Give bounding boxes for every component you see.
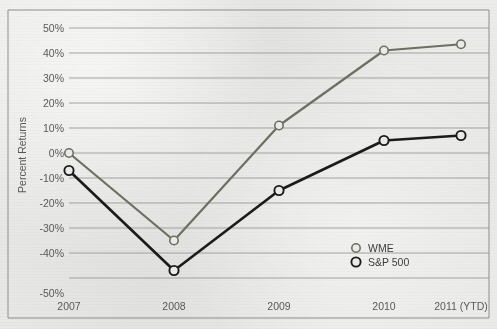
y-tick-label: 50%	[43, 22, 64, 34]
chart-page: Percent Returns 50% 40% 30% 20% 10% 0% -…	[0, 0, 497, 329]
data-point-marker	[169, 266, 178, 275]
y-tick-label: 20%	[43, 97, 64, 109]
legend-marker-icon	[351, 257, 360, 266]
x-tick-label: 2010	[372, 300, 396, 312]
gridlines	[69, 28, 489, 278]
y-tick-label: 0%	[49, 147, 64, 159]
y-tick-label: -40%	[39, 247, 64, 259]
data-point-marker	[379, 136, 388, 145]
data-point-marker	[64, 166, 73, 175]
legend-marker-icon	[352, 244, 360, 252]
y-axis-tick-labels: 50% 40% 30% 20% 10% 0% -10% -20% -30% -4…	[39, 22, 64, 299]
data-point-marker	[170, 236, 178, 244]
y-tick-label: 30%	[43, 72, 64, 84]
y-tick-label: 40%	[43, 47, 64, 59]
y-tick-label: 10%	[43, 122, 64, 134]
data-point-marker	[274, 186, 283, 195]
x-tick-label: 2011 (YTD)	[434, 300, 488, 312]
data-point-marker	[275, 121, 283, 129]
y-tick-label: -50%	[39, 287, 64, 299]
returns-line-chart: Percent Returns 50% 40% 30% 20% 10% 0% -…	[0, 0, 497, 329]
x-axis-tick-labels: 2007 2008 2009 2010 2011 (YTD)	[57, 300, 487, 312]
y-tick-label: -20%	[39, 197, 64, 209]
y-tick-label: -10%	[39, 172, 64, 184]
x-tick-label: 2009	[267, 300, 291, 312]
data-point-marker	[65, 149, 73, 157]
plot-frame	[8, 10, 489, 318]
series-line-wme	[69, 44, 461, 240]
data-point-marker	[457, 40, 465, 48]
y-tick-label: -30%	[39, 222, 64, 234]
legend-label-sp500: S&P 500	[368, 256, 409, 268]
data-point-marker	[380, 46, 388, 54]
chart-legend: WME S&P 500	[351, 242, 409, 268]
x-tick-label: 2008	[162, 300, 186, 312]
legend-label-wme: WME	[368, 242, 394, 254]
y-axis-title: Percent Returns	[16, 117, 28, 193]
data-point-marker	[456, 131, 465, 140]
x-tick-label: 2007	[57, 300, 81, 312]
